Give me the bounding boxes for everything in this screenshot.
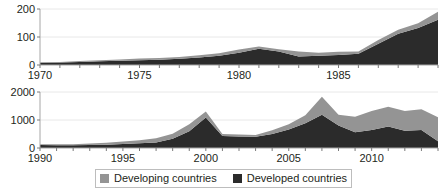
x-tick-label: 1990 <box>28 152 52 164</box>
black-square-swatch <box>233 174 242 183</box>
area-chart-top: 01002001970197519801985 <box>0 0 445 86</box>
y-tick-label: 2000 <box>11 86 35 98</box>
x-tick-label: 2010 <box>359 152 383 164</box>
x-tick-label: 2000 <box>194 152 218 164</box>
x-tick-label: 2005 <box>277 152 301 164</box>
x-tick-label: 1975 <box>127 69 151 81</box>
legend-item-developed: Developed countries <box>233 173 347 184</box>
gray-square-swatch <box>100 174 109 183</box>
chart-panel-bottom: 01000200019901995200020052010 <box>0 86 445 164</box>
area-chart-bottom: 01000200019901995200020052010 <box>0 86 445 164</box>
x-tick-label: 1980 <box>227 69 251 81</box>
x-tick-label: 1995 <box>111 152 135 164</box>
chart-panel-top: 01002001970197519801985 <box>0 0 445 86</box>
x-tick-label: 1970 <box>28 69 52 81</box>
legend-label-developing: Developing countries <box>114 173 217 184</box>
y-tick-label: 200 <box>17 3 35 15</box>
legend-item-developing: Developing countries <box>100 173 217 184</box>
chart-legend: Developing countries Developed countries <box>95 169 352 188</box>
y-tick-label: 100 <box>17 31 35 43</box>
y-tick-label: 1000 <box>11 114 35 126</box>
legend-label-developed: Developed countries <box>247 173 347 184</box>
x-tick-label: 1985 <box>326 69 350 81</box>
